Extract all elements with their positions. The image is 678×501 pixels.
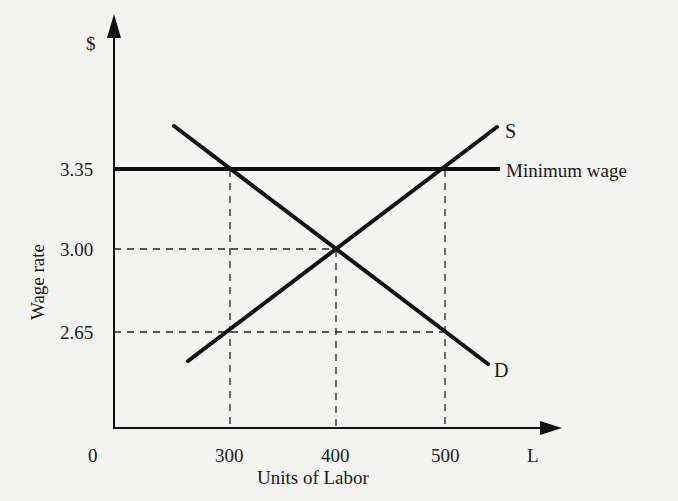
x-tick-500: 500: [431, 445, 460, 466]
x-tick-300: 300: [215, 445, 244, 466]
demand-label: D: [494, 359, 508, 381]
supply-label: S: [505, 120, 516, 142]
supply-curve: [188, 127, 497, 361]
dashed-guides: [114, 170, 445, 428]
origin-label: 0: [88, 445, 98, 466]
y-axis-end-label: $: [86, 33, 96, 54]
y-tick-3.00: 3.00: [60, 239, 93, 260]
x-tick-400: 400: [321, 445, 350, 466]
y-tick-2.65: 2.65: [60, 322, 93, 343]
y-axis-title: Wage rate: [27, 244, 48, 320]
demand-curve: [174, 126, 488, 364]
supply-demand-chart: $ 3.35 3.00 2.65 Wage rate 0 300 400 500…: [0, 0, 678, 501]
y-tick-3.35: 3.35: [60, 159, 93, 180]
y-axis-arrow-icon: [107, 14, 121, 38]
x-axis-arrow-icon: [540, 421, 562, 435]
minimum-wage-label: Minimum wage: [506, 160, 627, 181]
x-axis-title: Units of Labor: [257, 467, 370, 488]
x-axis-end-label: L: [527, 445, 539, 466]
